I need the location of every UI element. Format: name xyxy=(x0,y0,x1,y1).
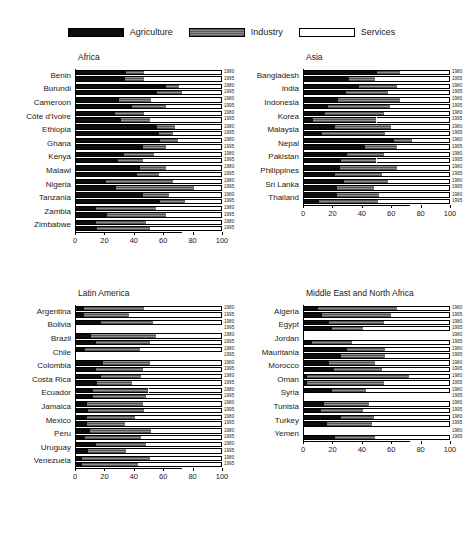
bar-segment-ind xyxy=(341,353,385,358)
bar-segment-ind xyxy=(318,306,397,311)
bar-segment-agri xyxy=(75,462,82,467)
country-row: Bolivia19801995 xyxy=(22,319,222,333)
bar-segment-agri xyxy=(75,199,160,204)
bar-segment-ind xyxy=(85,347,139,352)
bar-segment-agri xyxy=(75,333,91,338)
stacked-bar-1995 xyxy=(303,131,450,136)
stacked-bar-1980 xyxy=(75,206,222,211)
stacked-bar-pair: 19801995 xyxy=(75,110,222,124)
stacked-bar-pair: 19801995 xyxy=(303,83,450,97)
country-row: Peru19801995 xyxy=(22,427,222,441)
bar-segment-ind xyxy=(87,421,125,426)
country-label: Thailand xyxy=(250,194,303,202)
bar-cell: 19801995 xyxy=(75,359,222,373)
stacked-bar-1995 xyxy=(303,435,450,440)
stacked-bar-pair: 19801995 xyxy=(303,373,450,387)
bar-segment-serv xyxy=(374,415,450,420)
stacked-bar-pair: 19801995 xyxy=(303,359,450,373)
stacked-bar-pair: 19801995 xyxy=(303,164,450,178)
bar-segment-serv xyxy=(166,165,222,170)
country-label: Zambia xyxy=(22,208,75,216)
stacked-bar-pair: 19801995 xyxy=(303,387,450,401)
year-tick-label: 1995 xyxy=(452,394,462,399)
year-tick-label: 1995 xyxy=(224,435,234,440)
country-row: Cameroon19801995 xyxy=(22,96,222,110)
bar-segment-serv xyxy=(382,172,450,177)
bar-cell: 19801995 xyxy=(303,164,450,178)
bar-segment-agri xyxy=(303,165,340,170)
stacked-bar-pair: 19801995 xyxy=(303,137,450,151)
bar-segment-ind xyxy=(82,456,150,461)
bar-cell: 19801995 xyxy=(75,373,222,387)
x-axis-tick-label: 80 xyxy=(416,445,424,454)
year-tick-label: 1980 xyxy=(224,193,234,198)
bar-segment-serv xyxy=(140,347,222,352)
bar-segment-agri xyxy=(75,117,121,122)
bar-segment-serv xyxy=(391,312,450,317)
panel-title: Latin America xyxy=(22,288,222,299)
bar-segment-ind xyxy=(82,462,138,467)
stacked-bar-pair: 19801995 xyxy=(303,123,450,137)
bar-segment-serv xyxy=(388,179,450,184)
bar-segment-ind xyxy=(101,320,152,325)
stacked-bar-pair: 19801995 xyxy=(75,305,222,319)
stacked-bar-pair: 19801995 xyxy=(303,400,450,414)
country-label: Malawi xyxy=(22,167,75,175)
bar-cell: 19801995 xyxy=(303,96,450,110)
x-axis-line xyxy=(75,232,182,233)
panel-title: Asia xyxy=(250,52,450,63)
bar-segment-ind xyxy=(338,97,400,102)
year-tick-label: 1995 xyxy=(224,449,234,454)
country-label: Zimbabwe xyxy=(22,221,75,229)
country-label: Egypt xyxy=(250,321,303,329)
country-row: Benin19801995 xyxy=(22,69,222,83)
year-tick-label: 1980 xyxy=(224,111,234,116)
year-tick-label: 1980 xyxy=(224,152,234,157)
country-label: Nepal xyxy=(250,140,303,148)
stacked-bar-1980 xyxy=(303,152,450,157)
stacked-bar-pair: 19801995 xyxy=(75,137,222,151)
bar-segment-agri xyxy=(75,456,82,461)
stacked-bar-pair: 19801995 xyxy=(75,332,222,346)
bar-segment-agri xyxy=(303,340,312,345)
stacked-bar-1980 xyxy=(303,374,450,379)
bar-segment-agri xyxy=(75,131,159,136)
bar-segment-ind xyxy=(325,111,384,116)
bar-segment-ind xyxy=(349,76,375,81)
stacked-bar-1980 xyxy=(75,388,222,393)
stacked-bar-pair: 19801995 xyxy=(75,427,222,441)
bar-segment-ind xyxy=(91,333,156,338)
legend-label-services: Services xyxy=(361,27,396,37)
bar-cell: 19801995 xyxy=(303,178,450,192)
year-tick-label: 1995 xyxy=(224,90,234,95)
bar-segment-ind xyxy=(328,104,390,109)
stacked-bar-1995 xyxy=(75,462,222,467)
legend-item-agriculture: Agriculture xyxy=(68,27,173,37)
bar-segment-serv xyxy=(150,340,222,345)
country-row: Tanzania19801995 xyxy=(22,191,222,205)
bar-segment-serv xyxy=(150,117,222,122)
bar-segment-ind xyxy=(96,340,150,345)
stacked-bar-1995 xyxy=(75,90,222,95)
stacked-bar-1995 xyxy=(75,408,222,413)
bar-segment-ind xyxy=(344,179,388,184)
stacked-bar-1980 xyxy=(75,456,222,461)
x-axis-tick-label: 80 xyxy=(188,236,196,245)
year-tick-label: 1995 xyxy=(452,340,462,345)
country-row: Morocco19801995 xyxy=(250,359,450,373)
bar-segment-agri xyxy=(75,70,126,75)
year-tick-label: 1995 xyxy=(452,131,462,136)
bar-segment-agri xyxy=(303,138,394,143)
year-tick-label: 1980 xyxy=(452,429,462,434)
bar-segment-serv xyxy=(412,138,450,143)
country-row: Côte d'Ivoire19801995 xyxy=(22,110,222,124)
bar-segment-ind xyxy=(160,199,185,204)
stacked-bar-1995 xyxy=(75,226,222,231)
x-axis-tick xyxy=(222,468,223,471)
x-axis-tick-label: 100 xyxy=(444,209,457,218)
stacked-bar-1995 xyxy=(303,421,450,426)
x-axis-tick xyxy=(421,205,422,208)
bar-segment-ind xyxy=(125,76,144,81)
bar-segment-ind xyxy=(332,326,363,331)
bar-segment-serv xyxy=(185,199,222,204)
